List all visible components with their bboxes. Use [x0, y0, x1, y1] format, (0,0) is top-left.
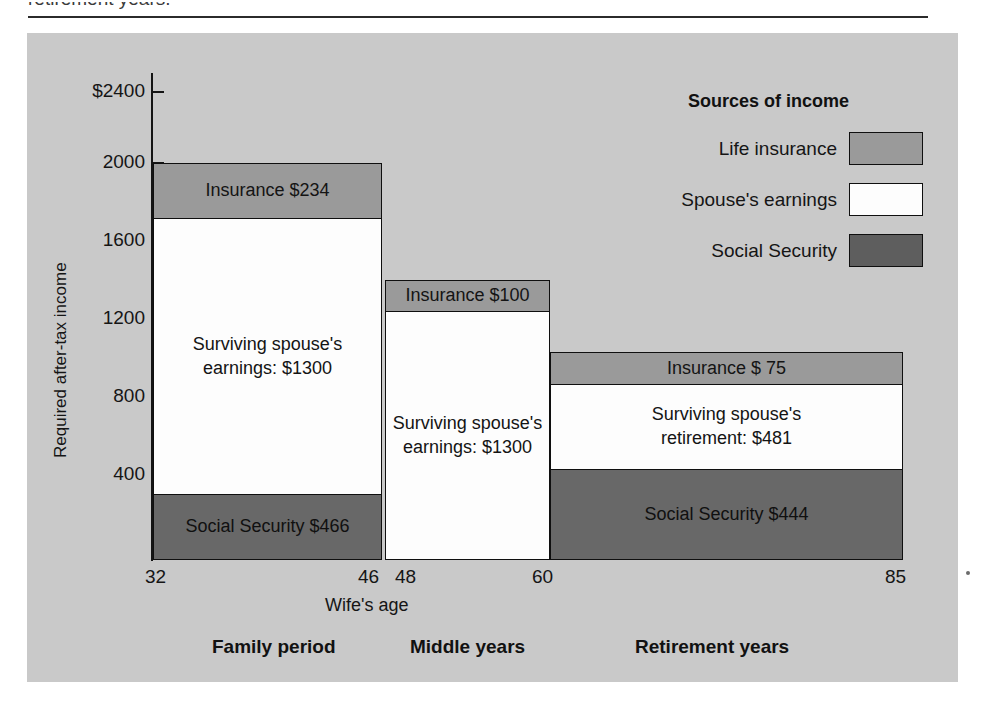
- bar-segment-social-3[interactable]: Social Security $444: [550, 469, 903, 560]
- chart-figure: $2400 2000 1600 1200 800 400 Required af…: [27, 33, 958, 682]
- bar-segment-label-insurance-2: Insurance $100: [399, 284, 535, 308]
- stacked-bar-retirement-years[interactable]: Insurance $ 75 Surviving spouse's retire…: [550, 352, 903, 560]
- bar-segment-label-insurance-1: Insurance $234: [199, 179, 335, 203]
- legend-swatch-life-insurance: [849, 132, 923, 165]
- bar-segment-earnings-2[interactable]: Surviving spouse's earnings: $1300: [385, 311, 550, 560]
- horizontal-rule: [28, 16, 928, 18]
- bar-segment-social-1[interactable]: Social Security $466: [153, 494, 382, 560]
- y-tick-label-400: 400: [37, 463, 145, 485]
- legend-item-social-security[interactable]: Social Security: [587, 234, 923, 267]
- bar-segment-earnings-1[interactable]: Surviving spouse's earnings: $1300: [153, 218, 382, 495]
- period-label-retirement-years: Retirement years: [635, 636, 789, 658]
- truncated-body-text: retirement years.: [28, 0, 171, 10]
- x-axis-title: Wife's age: [325, 595, 408, 616]
- period-label-middle-years: Middle years: [410, 636, 525, 658]
- x-tick-label-60: 60: [532, 566, 553, 588]
- x-tick-label-32: 32: [145, 566, 166, 588]
- legend-label-spouses-earnings: Spouse's earnings: [681, 189, 837, 211]
- legend-swatch-social-security: [849, 234, 923, 267]
- bar-segment-earnings-3[interactable]: Surviving spouse's retirement: $481: [550, 384, 903, 470]
- legend-swatch-spouses-earnings: [849, 183, 923, 216]
- bar-segment-label-insurance-3: Insurance $ 75: [661, 357, 792, 381]
- stacked-bar-middle-years[interactable]: Insurance $100 Surviving spouse's earnin…: [385, 280, 550, 560]
- scan-speck: [966, 571, 970, 575]
- y-tick-2400: [153, 91, 164, 93]
- legend-label-life-insurance: Life insurance: [719, 138, 837, 160]
- chart-plot-area: $2400 2000 1600 1200 800 400 Required af…: [27, 33, 958, 682]
- bar-segment-label-social-3: Social Security $444: [638, 503, 814, 527]
- period-label-family-period: Family period: [212, 636, 336, 658]
- stacked-bar-family-period[interactable]: Insurance $234 Surviving spouse's earnin…: [153, 163, 382, 560]
- page-top-fragment: retirement years.: [0, 0, 985, 30]
- x-tick-label-46: 46: [358, 566, 379, 588]
- bar-segment-label-earnings-2: Surviving spouse's earnings: $1300: [387, 412, 549, 460]
- legend-title: Sources of income: [688, 91, 849, 112]
- legend-item-spouses-earnings[interactable]: Spouse's earnings: [587, 183, 923, 216]
- y-tick-label-2000: 2000: [37, 151, 145, 173]
- legend-label-social-security: Social Security: [711, 240, 837, 262]
- y-axis-title: Required after-tax income: [51, 262, 71, 458]
- bar-segment-insurance-1[interactable]: Insurance $234: [153, 163, 382, 219]
- x-tick-label-85: 85: [885, 566, 906, 588]
- bar-segment-label-earnings-3: Surviving spouse's retirement: $481: [646, 403, 808, 451]
- y-tick-label-1600: 1600: [37, 229, 145, 251]
- bar-segment-insurance-2[interactable]: Insurance $100: [385, 280, 550, 312]
- legend-item-life-insurance[interactable]: Life insurance: [587, 132, 923, 165]
- x-tick-label-48: 48: [395, 566, 416, 588]
- bar-segment-label-social-1: Social Security $466: [179, 515, 355, 539]
- bar-segment-insurance-3[interactable]: Insurance $ 75: [550, 352, 903, 385]
- y-tick-label-2400: $2400: [37, 80, 145, 102]
- bar-segment-label-earnings-1: Surviving spouse's earnings: $1300: [187, 333, 349, 381]
